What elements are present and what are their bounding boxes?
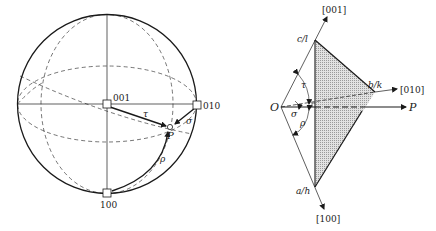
pole-100-marker [103, 189, 111, 197]
sigma-label: σ [186, 116, 193, 126]
intercept-b-label: b/k [368, 80, 382, 90]
sigma-angle-label: σ [291, 109, 298, 119]
rho-label: ρ [159, 154, 166, 164]
tau-label: τ [143, 109, 149, 119]
origin-label: O [270, 101, 279, 114]
axis-010-label: [010] [400, 85, 424, 95]
pole-001-label: 001 [113, 93, 130, 103]
point-p-label: P [166, 130, 174, 141]
tau-angle-label: τ [301, 80, 307, 90]
rho-angle-label: ρ [299, 118, 306, 128]
axis-001-label: [001] [322, 5, 346, 15]
pole-010-label: 010 [203, 101, 220, 111]
shaded-plane [315, 40, 375, 187]
figure-canvas: 001 010 100 P τ σ ρ O [001] [010] [100] [0, 0, 436, 231]
pole-010-marker [193, 101, 201, 109]
point-p-marker [167, 124, 172, 129]
stereogram: 001 010 100 P τ σ ρ [18, 15, 221, 211]
pole-100-label: 100 [100, 200, 117, 210]
pole-001-marker [103, 100, 111, 108]
axis-100-label: [100] [316, 214, 340, 224]
normal-p-label: P [408, 101, 417, 114]
intercept-a-label: a/h [296, 186, 310, 196]
plane-diagram: O [001] [010] [100] c/l b/k a/h P τ σ ρ [270, 5, 424, 224]
tau-arc [110, 107, 166, 126]
intercept-c-label: c/l [297, 34, 308, 44]
